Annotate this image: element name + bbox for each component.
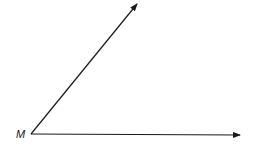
horizontal-ray — [31, 134, 240, 135]
angle-diagram: M — [0, 0, 255, 158]
upper-ray — [31, 4, 137, 134]
vertex-label: M — [16, 128, 26, 140]
